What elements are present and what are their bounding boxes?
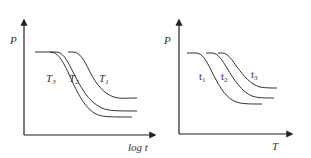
label-T2: T2	[69, 72, 79, 86]
label-t1: t1	[199, 70, 206, 84]
right-y-axis-label: P	[163, 34, 171, 46]
curve-T2	[50, 52, 137, 111]
left-diagram: P log t T3 T2 T1	[9, 20, 155, 153]
label-t3: t3	[251, 68, 258, 82]
right-x-axis-label: T	[272, 140, 279, 152]
label-T3: T3	[46, 72, 56, 86]
left-y-axis-label: P	[9, 34, 17, 46]
curve-T3	[35, 52, 132, 117]
label-T1: T1	[99, 72, 109, 86]
diagram-canvas: P log t T3 T2 T1 P T t1 t2	[0, 0, 311, 158]
curve-t2	[206, 53, 274, 98]
right-diagram: P T t1 t2 t3	[163, 20, 292, 152]
left-x-axis-label: log t	[128, 141, 149, 153]
label-t2: t2	[221, 70, 228, 84]
